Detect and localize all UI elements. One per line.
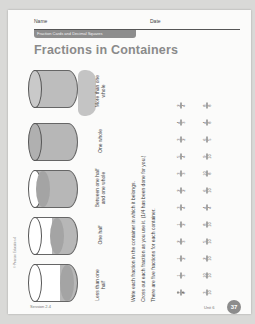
container-label: More than one whole [94, 71, 106, 111]
unit-banner: Fraction Cards and Decimal Squares [34, 30, 136, 38]
fraction-item: 910 [203, 154, 212, 160]
date-label: Date [150, 18, 161, 24]
container-label: Between one half and one whole [94, 168, 106, 208]
fraction-item: 32 [177, 137, 186, 143]
fraction-item: 65 [203, 137, 212, 143]
fraction-item: 1010 [203, 273, 212, 279]
fraction-item: 34 [177, 205, 186, 211]
fraction-item: 810 [203, 222, 212, 228]
unit-label: Unit 6 [204, 305, 214, 310]
instruction-2: Cross out each fraction as you use it. (… [140, 156, 146, 302]
container-label: One whole [97, 121, 103, 161]
container-between-half-and-whole [28, 168, 80, 210]
name-label: Name [34, 18, 47, 24]
container-one-half [28, 215, 80, 257]
fraction-item: 610 [203, 188, 212, 194]
instruction-3: There are five fractions for each contai… [150, 208, 156, 302]
container-one-whole [28, 121, 80, 163]
lesson-label: Session 2.4 [30, 304, 51, 309]
name-date-line: Name Date [34, 18, 240, 30]
worksheet-page: Name Date Fraction Cards and Decimal Squ… [8, 10, 251, 314]
fraction-item: 44 [203, 205, 212, 211]
fraction-item: 108 [203, 171, 212, 177]
fraction-item: 13 [177, 273, 186, 279]
fraction-item: 14 [177, 290, 186, 296]
fraction-item: 24 [177, 103, 186, 109]
fraction-item: 43 [177, 120, 186, 126]
container-label: Less than one half [94, 265, 106, 305]
fraction-item: 23 [177, 239, 186, 245]
page-number-badge: 37 [227, 300, 241, 314]
fraction-item: 310 [203, 290, 212, 296]
container-label: One half [97, 215, 103, 255]
fraction-item: 12 [177, 256, 186, 262]
fraction-item: 12 [177, 222, 186, 228]
page-title: Fractions in Containers [34, 43, 178, 57]
fraction-item: 210 [203, 256, 212, 262]
fraction-item: 22 [177, 188, 186, 194]
container-more-than-one-whole [28, 68, 80, 110]
fraction-item: 48 [203, 120, 212, 126]
instruction-1: Write each fraction in the container in … [130, 181, 136, 302]
container-less-than-one-half [28, 262, 80, 304]
fraction-item: 510 [203, 239, 212, 245]
fraction-item: 88 [203, 103, 212, 109]
copyright: © Pearson Education 4 [13, 237, 17, 268]
fraction-item: 54 [177, 154, 186, 160]
fraction-item: 33 [177, 171, 186, 177]
